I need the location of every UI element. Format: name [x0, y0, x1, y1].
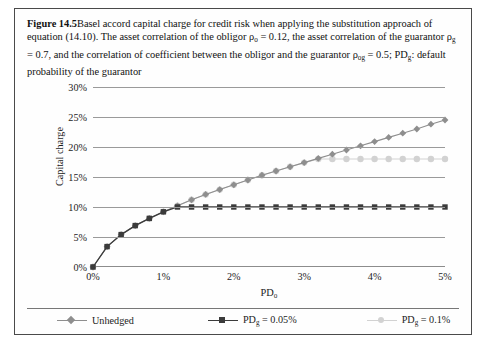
data-point-circle	[371, 156, 377, 162]
x-tick-label: 5%	[425, 271, 465, 282]
data-point-diamond	[301, 159, 308, 166]
legend-label-text: PD	[243, 314, 256, 325]
caption-text-3: = 0.7, and the correlation of coefficien…	[27, 49, 358, 60]
legend-swatch-circle-icon	[367, 315, 397, 325]
data-point-square	[161, 209, 166, 214]
x-tick-label: 2%	[214, 271, 254, 282]
x-axis-label-sub: o	[274, 292, 278, 300]
figure-label: Figure 14.5	[27, 18, 77, 29]
x-axis-ticks: 0%1%2%3%4%5%	[93, 271, 445, 287]
chart-legend: UnhedgedPDg = 0.05%PDg = 0.1%	[27, 308, 459, 331]
data-point-square	[90, 264, 95, 269]
y-tick-label: 15%	[47, 172, 87, 183]
data-point-diamond	[371, 138, 378, 145]
legend-label-text: PD	[402, 314, 415, 325]
legend-label: PDg = 0.1%	[402, 314, 451, 327]
y-tick-label: 30%	[47, 82, 87, 93]
data-point-diamond	[329, 151, 336, 158]
data-point-circle	[428, 156, 434, 162]
chart-grid	[93, 87, 445, 267]
gridline	[93, 87, 445, 88]
data-point-diamond	[216, 186, 223, 193]
data-point-diamond	[230, 181, 237, 188]
data-point-diamond	[273, 168, 280, 175]
y-tick-label: 10%	[47, 202, 87, 213]
gridline	[93, 237, 445, 238]
data-point-circle	[357, 156, 363, 162]
legend-label-tail: = 0.05%	[260, 314, 297, 325]
data-point-circle	[414, 156, 420, 162]
figure-caption: Figure 14.5Basel accord capital charge f…	[27, 17, 459, 79]
data-point-square	[133, 223, 138, 228]
legend-label: PDg = 0.05%	[243, 314, 297, 327]
data-point-square	[147, 216, 152, 221]
data-point-diamond	[385, 134, 392, 141]
data-point-circle	[400, 156, 406, 162]
data-point-diamond	[413, 126, 420, 133]
x-tick-label: 1%	[143, 271, 183, 282]
series-line	[93, 159, 445, 267]
data-point-circle	[343, 156, 349, 162]
legend-item-1[interactable]: PDg = 0.05%	[208, 314, 297, 327]
x-tick-label: 0%	[73, 271, 113, 282]
data-point-circle	[385, 156, 391, 162]
legend-item-2[interactable]: PDg = 0.1%	[367, 314, 451, 327]
legend-label-tail: = 0.1%	[418, 314, 450, 325]
caption-sub-og: og	[358, 54, 365, 62]
gridline	[93, 117, 445, 118]
data-point-diamond	[287, 163, 294, 170]
legend-marker-circle-icon	[378, 317, 384, 323]
gridline	[93, 147, 445, 148]
x-axis-label: PDo	[93, 287, 445, 300]
data-point-diamond	[399, 130, 406, 137]
y-tick-label: 25%	[47, 112, 87, 123]
y-tick-label: 5%	[47, 232, 87, 243]
data-point-circle	[442, 156, 448, 162]
gridline	[93, 177, 445, 178]
data-point-square	[104, 244, 109, 249]
figure-frame: Figure 14.5Basel accord capital charge f…	[14, 8, 472, 335]
data-point-diamond	[188, 196, 195, 203]
series-line	[93, 120, 445, 267]
data-point-diamond	[357, 142, 364, 149]
series-0	[90, 117, 449, 271]
caption-sub-guarantor: g	[452, 36, 456, 44]
gridline	[93, 207, 445, 208]
caption-text-2: = 0.12, the asset correlation of the gua…	[258, 31, 452, 42]
legend-item-0[interactable]: Unhedged	[57, 315, 134, 326]
legend-swatch-square-icon	[208, 315, 238, 325]
legend-marker-diamond-icon	[67, 316, 75, 324]
x-tick-label: 4%	[355, 271, 395, 282]
y-axis-ticks: 0%5%10%15%20%25%30%	[43, 87, 87, 267]
data-point-diamond	[428, 121, 435, 128]
data-point-diamond	[202, 191, 209, 198]
legend-label: Unhedged	[92, 315, 134, 326]
caption-text-4: = 0.5; PD	[365, 49, 408, 60]
y-tick-label: 20%	[47, 142, 87, 153]
chart-plot-area: Capital charge 0%5%10%15%20%25%30% 0%1%2…	[25, 87, 463, 309]
x-tick-label: 3%	[284, 271, 324, 282]
legend-marker-square-icon	[219, 317, 225, 323]
legend-swatch-diamond-icon	[57, 315, 87, 325]
x-axis-label-text: PD	[261, 287, 274, 298]
